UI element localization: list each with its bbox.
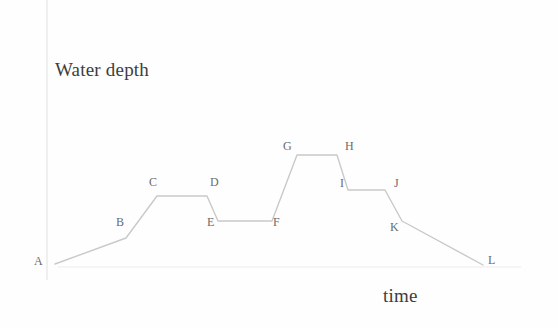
point-label-h: H (345, 140, 354, 152)
point-label-f: F (273, 216, 280, 228)
water-depth-line-chart (0, 0, 559, 329)
x-axis-title: time (383, 285, 418, 307)
point-label-c: C (149, 176, 157, 188)
water-depth-series-line (55, 155, 483, 265)
point-label-e: E (207, 216, 214, 228)
point-label-j: J (394, 177, 399, 189)
y-axis-title: Water depth (55, 59, 149, 81)
point-label-a: A (34, 255, 43, 267)
point-label-i: I (340, 177, 344, 189)
point-label-g: G (283, 140, 292, 152)
point-label-b: B (116, 216, 124, 228)
chart-canvas: Water depth time ABCDEFGHIJKL (0, 0, 559, 329)
point-label-k: K (390, 221, 399, 233)
point-label-d: D (210, 176, 219, 188)
point-label-l: L (488, 254, 495, 266)
